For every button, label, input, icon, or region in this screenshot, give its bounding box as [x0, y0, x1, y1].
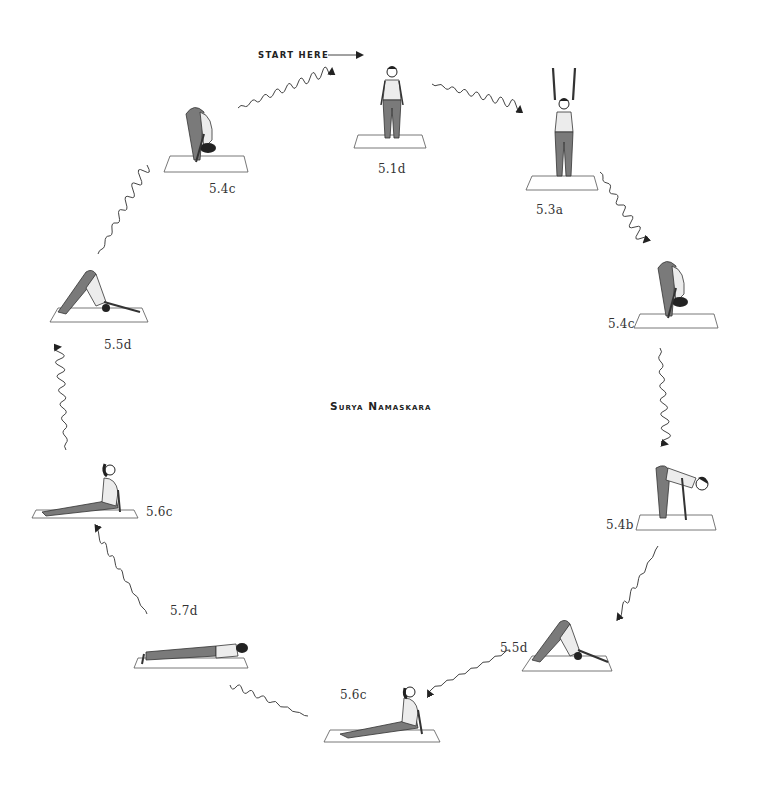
pose-label-5-3a: 5.3a	[536, 203, 563, 217]
pose-standing-mountain	[352, 60, 432, 155]
pose-standing-arms-raised	[524, 66, 604, 194]
arrow-right-to-bottomright	[618, 546, 658, 617]
arrow-left-up	[54, 347, 67, 450]
arrow-bottomleft-to-left	[96, 529, 147, 614]
pose-standing-forward-fold-topleft	[160, 104, 250, 176]
arrow-topright-to-right	[600, 172, 648, 242]
pose-label-5-6c-left: 5.6c	[146, 505, 173, 519]
pose-label-5-7d: 5.7d	[170, 604, 198, 618]
mat	[636, 515, 716, 530]
pose-downward-dog-left	[48, 266, 152, 326]
pose-label-5-4c-right: 5.4c	[608, 317, 635, 331]
pose-label-5-5d-left: 5.5d	[104, 338, 132, 352]
pose-label-5-1d: 5.1d	[378, 162, 406, 176]
mat	[526, 176, 598, 190]
arrow-top-to-topright	[432, 84, 520, 111]
pose-label-5-6c-bottom: 5.6c	[340, 688, 367, 702]
arrow-left-to-topleft	[98, 165, 149, 254]
pose-label-5-4b: 5.4b	[606, 518, 634, 532]
mat	[164, 156, 248, 172]
start-here-label: START HERE	[258, 50, 329, 60]
pose-standing-forward-fold	[630, 258, 720, 333]
pose-label-5-5d-right: 5.5d	[500, 641, 528, 655]
arrow-right-down	[659, 348, 671, 444]
diagram-title: Surya Namaskara	[330, 400, 432, 412]
mat	[634, 314, 718, 328]
arrow-bottom-to-bottomleft	[230, 685, 308, 716]
pose-label-5-4c-topleft: 5.4c	[209, 182, 236, 196]
arrow-topleft-to-top	[238, 67, 332, 108]
pose-low-plank	[132, 636, 252, 672]
pose-downward-dog	[518, 616, 618, 676]
pose-half-forward-fold	[632, 462, 722, 534]
pose-upward-dog-left	[30, 458, 142, 520]
